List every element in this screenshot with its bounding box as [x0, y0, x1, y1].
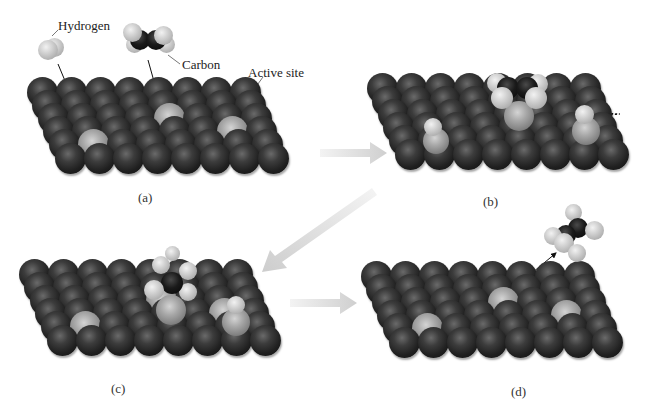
- metal-atom: [389, 327, 420, 358]
- arrow-a-to-b-icon: [320, 142, 387, 164]
- hydrogen-atom: [154, 26, 173, 45]
- arrow-c-to-d-icon: [290, 292, 357, 314]
- metal-atom: [105, 325, 136, 356]
- carbon-atom: [161, 272, 183, 294]
- metal-atom: [142, 143, 173, 174]
- hydrogen-atom: [568, 244, 586, 262]
- hydrogen-atom: [575, 105, 594, 124]
- hydrogen-atom: [152, 256, 170, 274]
- hydrogen-atom: [585, 221, 604, 240]
- metal-atom: [134, 325, 165, 356]
- hydrogen-atom: [123, 23, 142, 42]
- metal-atom: [563, 327, 594, 358]
- active-site-atom: [156, 295, 186, 325]
- hydrogen-atom: [38, 40, 58, 60]
- active-site-label: Active site: [248, 65, 304, 81]
- metal-atom: [418, 327, 449, 358]
- hydrogen-atom: [491, 87, 513, 109]
- metal-atom: [395, 139, 426, 170]
- metal-atom: [84, 143, 115, 174]
- metal-atom: [200, 143, 231, 174]
- metal-atom: [163, 325, 194, 356]
- metal-atom: [482, 139, 513, 170]
- caption-a: (a): [138, 190, 152, 206]
- hydrogen-atom: [424, 118, 442, 136]
- caption-d: (d): [511, 384, 526, 400]
- metal-atom: [447, 327, 478, 358]
- metal-atom: [598, 139, 629, 170]
- metal-atom: [171, 143, 202, 174]
- metal-atom: [258, 143, 289, 174]
- hydrogen-label: Hydrogen: [58, 18, 110, 34]
- hydrogen-atom: [227, 296, 245, 314]
- metal-atom: [592, 327, 623, 358]
- metal-atom: [453, 139, 484, 170]
- metal-atom: [76, 325, 107, 356]
- metal-atom: [476, 327, 507, 358]
- carbon-label: Carbon: [182, 57, 220, 73]
- metal-atom: [47, 325, 78, 356]
- metal-atom: [192, 325, 223, 356]
- hydrogen-atom: [144, 280, 164, 300]
- metal-atom: [534, 327, 565, 358]
- metal-atom: [540, 139, 571, 170]
- metal-atom: [250, 325, 281, 356]
- arrow-b-to-c-icon: [262, 188, 377, 272]
- hydrogen-atom: [525, 87, 547, 109]
- metal-atom: [55, 143, 86, 174]
- caption-b: (b): [483, 194, 498, 210]
- metal-atom: [113, 143, 144, 174]
- metal-atom: [229, 143, 260, 174]
- catalysis-figure: Hydrogen Carbon Active site (a) (b) (c) …: [0, 0, 664, 415]
- metal-atom: [505, 327, 536, 358]
- caption-c: (c): [111, 381, 125, 397]
- metal-atom: [511, 139, 542, 170]
